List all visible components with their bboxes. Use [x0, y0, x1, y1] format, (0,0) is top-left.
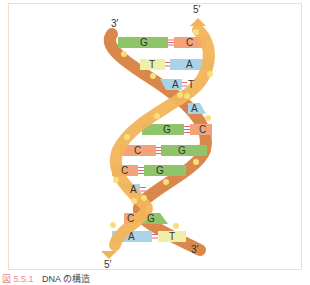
base-label: C	[134, 145, 141, 156]
base-label: G	[163, 124, 171, 135]
end-label-bottom-right: 3′	[191, 244, 198, 255]
base-label: A	[186, 59, 193, 70]
base-label: A	[191, 103, 198, 114]
end-label-bottom-left: 5′	[104, 259, 111, 270]
base-label: A	[130, 184, 137, 195]
base-label: G	[147, 213, 155, 224]
base-label: C	[199, 124, 206, 135]
figure-caption: 図 5.5.1 DNA の構造	[2, 272, 90, 285]
base-label: A	[128, 231, 135, 242]
figure-number: 図 5.5.1	[2, 274, 34, 284]
figure-title: DNA の構造	[42, 274, 90, 284]
end-label-top-left: 3′	[111, 18, 118, 29]
base-label: T	[169, 231, 175, 242]
base-label: G	[178, 145, 186, 156]
base-label: G	[156, 165, 164, 176]
base-label: T	[149, 59, 155, 70]
base-label: T	[188, 79, 194, 90]
end-label-top-right: 5′	[193, 4, 200, 15]
base-label: G	[140, 37, 148, 48]
base-label: C	[127, 213, 134, 224]
base-label: C	[186, 37, 193, 48]
bottom-left-5prime-marker	[101, 251, 117, 259]
base-label: C	[121, 165, 128, 176]
top-right-5prime-marker	[190, 18, 206, 26]
base-label: A	[172, 79, 179, 90]
